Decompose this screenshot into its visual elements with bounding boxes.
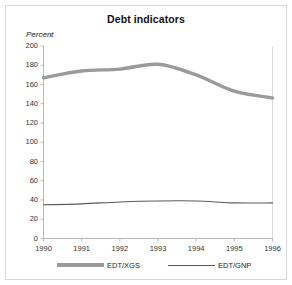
y-tick-label: 160: [14, 81, 38, 89]
y-tick-label: 20: [14, 215, 38, 223]
y-tick-label: 120: [14, 119, 38, 127]
legend-swatch-icon-edt-xgs: [57, 263, 104, 267]
series-line-edt-xgs: [44, 64, 273, 98]
legend-swatch-icon-edt-gnp: [168, 265, 215, 266]
series-line-edt-gnp: [44, 201, 273, 205]
legend-entry-edt-xgs: EDT/XGS: [57, 258, 140, 272]
x-tick-label: 1992: [102, 245, 138, 253]
plot-area: [0, 0, 292, 285]
x-tick-label: 1990: [26, 245, 62, 253]
legend-entry-edt-gnp: EDT/GNP: [168, 258, 251, 272]
x-tick-label: 1991: [64, 245, 100, 253]
y-tick-label: 180: [14, 61, 38, 69]
y-tick-label: 200: [14, 42, 38, 50]
legend-label-edt-xgs: EDT/XGS: [107, 261, 140, 270]
y-tick-label: 0: [14, 235, 38, 243]
y-tick-label: 80: [14, 158, 38, 166]
y-tick-label: 60: [14, 177, 38, 185]
x-tick-label: 1995: [216, 245, 252, 253]
chart-legend: EDT/XGS EDT/GNP: [0, 258, 292, 278]
x-tick-label: 1993: [140, 245, 176, 253]
x-tick-label: 1996: [255, 245, 291, 253]
y-tick-label: 100: [14, 138, 38, 146]
x-tick-label: 1994: [178, 245, 214, 253]
y-tick-label: 40: [14, 196, 38, 204]
chart-figure: Debt indicators Percent 0204060801001201…: [0, 0, 292, 285]
legend-label-edt-gnp: EDT/GNP: [218, 261, 251, 270]
y-tick-label: 140: [14, 100, 38, 108]
